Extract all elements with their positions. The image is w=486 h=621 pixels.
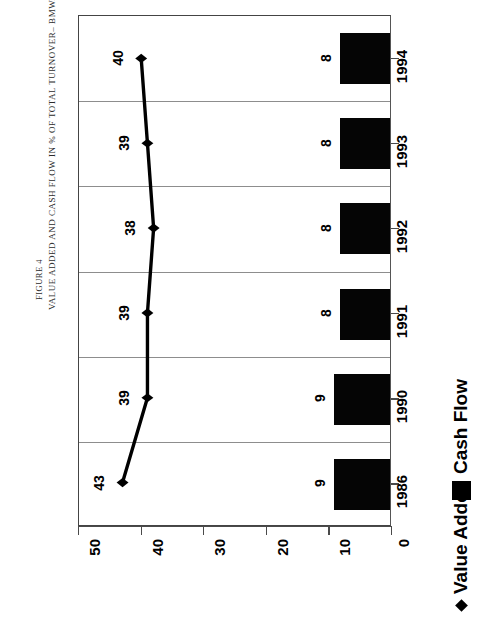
bar-value-label: 8 bbox=[318, 133, 334, 153]
legend-item-value-added: Value Added bbox=[450, 481, 472, 610]
value-axis-tick bbox=[141, 526, 142, 535]
category-axis-label: 1991 bbox=[393, 305, 410, 338]
value-axis-tick bbox=[328, 526, 329, 535]
diamond-marker-icon bbox=[135, 54, 147, 63]
line-path bbox=[123, 58, 154, 482]
line-value-label: 39 bbox=[116, 301, 132, 325]
value-axis-tick-label: 20 bbox=[274, 539, 291, 556]
line-value-label: 43 bbox=[91, 471, 107, 495]
legend-item-cash-flow: Cash Flow bbox=[450, 379, 472, 500]
line-value-label: 39 bbox=[116, 131, 132, 155]
bar-value-label: 8 bbox=[318, 48, 334, 68]
black-square-swatch-icon bbox=[452, 481, 471, 500]
value-axis-tick bbox=[78, 526, 79, 535]
diamond-marker-icon bbox=[141, 139, 153, 148]
figure-caption-block: FIGURE 4 VALUE ADDED AND CASH FLOW IN % … bbox=[0, 0, 70, 560]
diamond-marker-icon bbox=[141, 308, 153, 317]
bar-value-label: 8 bbox=[318, 303, 334, 323]
line-value-label: 39 bbox=[116, 386, 132, 410]
bar-value-label: 9 bbox=[312, 473, 328, 493]
chart-legend: Value Added Cash Flow bbox=[420, 380, 480, 620]
value-axis-tick-label: 40 bbox=[149, 539, 166, 556]
value-axis-tick bbox=[266, 526, 267, 535]
category-axis-label: 1994 bbox=[393, 49, 410, 82]
bar-value-label: 9 bbox=[312, 388, 328, 408]
value-axis-tick-label: 50 bbox=[86, 539, 103, 556]
value-axis-line bbox=[78, 526, 391, 527]
category-axis-label: 1986 bbox=[393, 475, 410, 508]
line-value-label: 38 bbox=[122, 216, 138, 240]
value-axis-tick-label: 10 bbox=[337, 539, 354, 556]
line-series-value-added bbox=[79, 16, 390, 525]
value-axis-tick-label: 30 bbox=[212, 539, 229, 556]
category-axis-label: 1990 bbox=[393, 390, 410, 423]
line-value-label: 40 bbox=[110, 46, 126, 70]
figure-number: FIGURE 4 bbox=[34, 259, 44, 300]
category-axis-label: 1993 bbox=[393, 135, 410, 168]
value-axis: 50403020100 bbox=[78, 526, 391, 572]
value-axis-tick bbox=[391, 526, 392, 535]
legend-label-cash-flow: Cash Flow bbox=[450, 379, 472, 474]
plot-area: 433939383940 998888 bbox=[78, 15, 391, 526]
category-axis-label: 1992 bbox=[393, 220, 410, 253]
diamond-marker-icon bbox=[148, 224, 160, 233]
diamond-marker-icon bbox=[455, 599, 468, 612]
diamond-marker-icon bbox=[141, 393, 153, 402]
value-axis-tick-label: 0 bbox=[395, 539, 412, 547]
value-axis-tick bbox=[203, 526, 204, 535]
diamond-marker-icon bbox=[117, 478, 129, 487]
bar-value-label: 8 bbox=[318, 218, 334, 238]
figure-title: VALUE ADDED AND CASH FLOW IN % OF TOTAL … bbox=[47, 0, 57, 310]
